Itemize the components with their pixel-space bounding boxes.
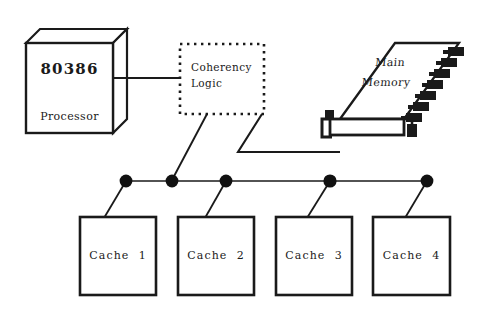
bus-node-dot[interactable] — [120, 175, 133, 188]
cache-label-4: Cache 4 — [373, 249, 450, 262]
coherency-to-bus-link — [172, 114, 207, 180]
coherency-logic-label-line1: Coherency — [191, 60, 263, 75]
bus-node-dot[interactable] — [421, 175, 434, 188]
memory-chip — [407, 124, 417, 137]
cache-label-2: Cache 2 — [178, 249, 254, 262]
bus-node-dot[interactable] — [323, 174, 336, 187]
diagram-vector-layer — [0, 0, 481, 318]
main-memory-label-line1: Main — [362, 56, 418, 71]
memory-connector-block — [325, 110, 334, 119]
diagram-canvas: 80386 Processor Coherency Logic Main Mem… — [0, 0, 481, 318]
bus-node-dot[interactable] — [220, 175, 233, 188]
cache-label-1: Cache 1 — [80, 249, 156, 262]
main-memory-label-line2: Memory — [354, 76, 418, 91]
bus-to-cache-4-link — [405, 181, 427, 218]
processor-side-face — [113, 29, 127, 133]
coherency-logic-label-line2: Logic — [191, 76, 263, 91]
bus-to-cache-1-link — [104, 181, 126, 218]
cache-label-3: Cache 3 — [276, 249, 352, 262]
processor-chip-label: 80386 — [26, 60, 113, 78]
memory-card-edge — [330, 119, 404, 135]
bus-node-dot[interactable] — [166, 175, 179, 188]
processor-role-label: Processor — [26, 110, 113, 123]
processor-top-face — [26, 29, 127, 43]
